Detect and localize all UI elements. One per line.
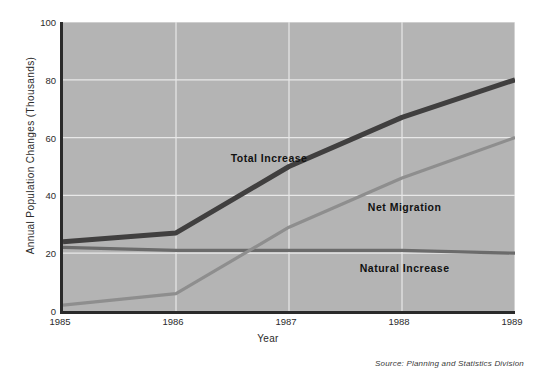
x-tick-label-1986: 1986 bbox=[143, 316, 203, 327]
y-tick-label-0: 0 bbox=[30, 306, 56, 317]
source-note: Source: Planning and Statistics Division bbox=[375, 359, 524, 368]
series-label-total-increase: Total Increase bbox=[231, 152, 308, 164]
series-label-natural-increase: Natural Increase bbox=[360, 262, 450, 274]
y-tick-label-100: 100 bbox=[30, 17, 56, 28]
y-tick-label-80: 80 bbox=[30, 74, 56, 85]
y-tick-label-20: 20 bbox=[30, 248, 56, 259]
x-tick-label-1989: 1989 bbox=[482, 316, 536, 327]
x-axis-title: Year bbox=[0, 333, 536, 344]
x-axis-tick-labels: 19851986198719881989 bbox=[0, 316, 536, 330]
series-label-net-migration: Net Migration bbox=[368, 201, 442, 213]
y-tick-label-40: 40 bbox=[30, 190, 56, 201]
chart-figure: Annual Population Changes (Thousands) 02… bbox=[0, 0, 536, 377]
x-tick-label-1985: 1985 bbox=[30, 316, 90, 327]
x-tick-label-1988: 1988 bbox=[369, 316, 429, 327]
y-tick-label-60: 60 bbox=[30, 132, 56, 143]
x-tick-label-1987: 1987 bbox=[256, 316, 316, 327]
